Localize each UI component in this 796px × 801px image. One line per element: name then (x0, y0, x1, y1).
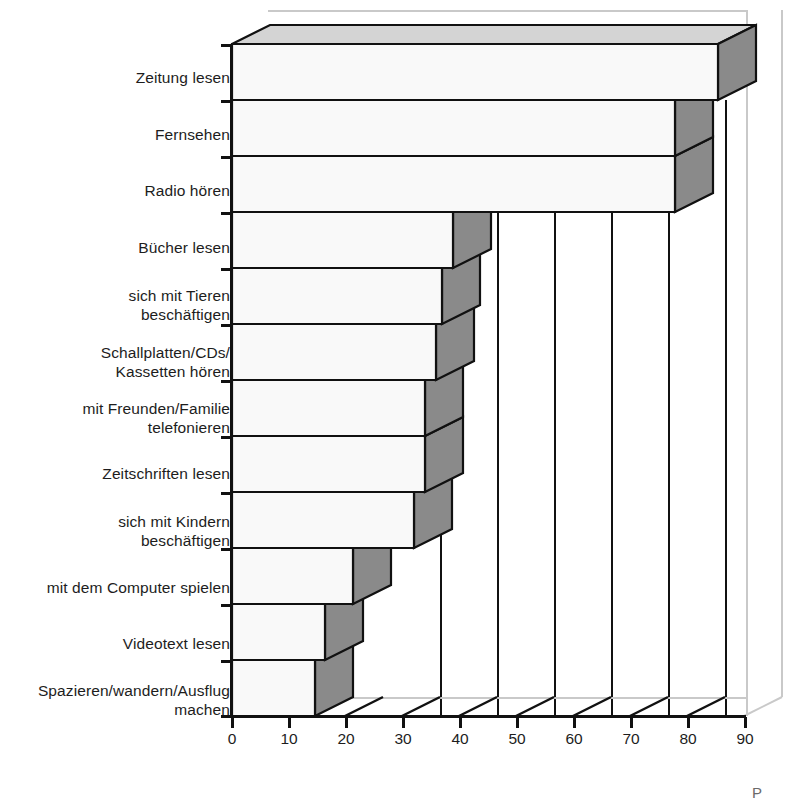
bars-layer (0, 0, 796, 801)
x-axis-tick (345, 717, 348, 728)
x-axis-tick (630, 717, 633, 728)
y-axis-tick (221, 660, 232, 663)
x-axis-tick-label: 30 (383, 730, 423, 748)
x-axis-tick (231, 717, 234, 728)
x-axis-tick (687, 717, 690, 728)
y-axis-tick (221, 548, 232, 551)
y-axis-tick (221, 604, 232, 607)
x-axis-tick-label: 0 (212, 730, 252, 748)
x-axis-tick-label: 90 (725, 730, 765, 748)
x-axis-tick (402, 717, 405, 728)
x-axis-tick-label: 60 (554, 730, 594, 748)
y-axis-tick (221, 212, 232, 215)
x-axis-tick (573, 717, 576, 728)
y-axis-tick (221, 44, 232, 47)
y-axis-tick (221, 268, 232, 271)
y-axis-tick (221, 492, 232, 495)
x-axis-tick-label: 20 (326, 730, 366, 748)
x-axis-tick-label: 80 (668, 730, 708, 748)
x-axis-tick (459, 717, 462, 728)
y-axis-tick (221, 436, 232, 439)
y-axis-tick (221, 324, 232, 327)
bar-zeitung[interactable] (232, 25, 756, 100)
x-axis-tick (288, 717, 291, 728)
y-axis-tick (221, 100, 232, 103)
x-axis-tick (516, 717, 519, 728)
x-axis-tick-label: 50 (497, 730, 537, 748)
x-axis-tick-label: 10 (269, 730, 309, 748)
x-axis-line (230, 715, 746, 718)
x-axis-tick (744, 717, 747, 728)
y-axis-tick (221, 380, 232, 383)
y-axis-tick (221, 156, 232, 159)
x-axis-tick-label: 70 (611, 730, 651, 748)
axis-unit-caption: P (752, 784, 762, 801)
chart-canvas: Zeitung lesen Fernsehen Radio hören Büch… (0, 0, 796, 801)
x-axis-tick-label: 40 (440, 730, 480, 748)
